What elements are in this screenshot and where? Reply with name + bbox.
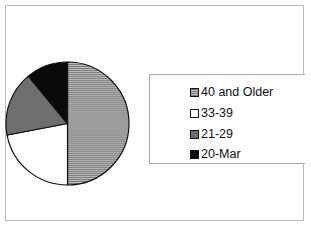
legend-label: 33-39	[201, 106, 233, 120]
legend-label: 20-Mar	[201, 147, 241, 161]
legend-item-20-mar: 20-Mar	[190, 147, 241, 161]
legend-item-40-and-older: 40 and Older	[190, 85, 273, 99]
pie-slice-40-and-older	[68, 62, 130, 185]
legend-swatch-icon	[190, 150, 199, 159]
legend-item-33-39: 33-39	[190, 106, 233, 120]
pie-chart	[4, 60, 131, 187]
legend-label: 40 and Older	[201, 85, 273, 99]
legend-label: 21-29	[201, 127, 233, 141]
legend-swatch-icon	[190, 88, 199, 97]
legend-swatch-icon	[190, 109, 199, 118]
legend-swatch-icon	[190, 130, 199, 139]
chart-legend: 40 and Older 33-39 21-29 20-Mar	[149, 74, 305, 164]
legend-item-21-29: 21-29	[190, 127, 233, 141]
